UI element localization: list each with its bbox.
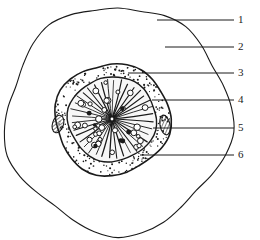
label-3: 3 [238,67,244,78]
label-6: 6 [238,149,244,160]
cross-section-drawing [0,0,260,240]
label-2: 2 [238,41,244,52]
figure-canvas: 123456 [0,0,260,240]
label-5: 5 [238,122,244,133]
label-4: 4 [238,94,244,105]
label-1: 1 [238,14,244,25]
